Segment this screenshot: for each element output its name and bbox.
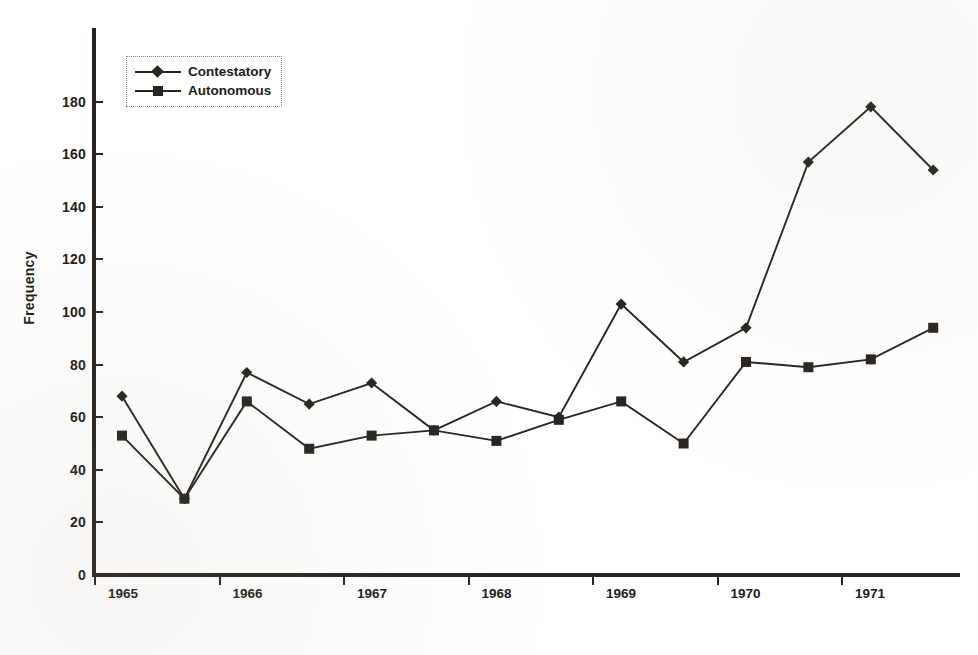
data-point-square [803, 362, 813, 372]
chart-legend: Contestatory Autonomous [126, 56, 282, 107]
data-point-square [117, 431, 127, 441]
diamond-marker-icon [135, 65, 181, 79]
data-point-diamond [304, 398, 315, 409]
data-point-square [429, 425, 439, 435]
series-line-autonomous [122, 328, 933, 499]
data-point-diamond [241, 367, 252, 378]
data-point-diamond [740, 322, 751, 333]
plot-area: Frequency 020406080100120140160180 19651… [0, 0, 978, 655]
legend-label-autonomous: Autonomous [188, 83, 271, 98]
legend-item-autonomous: Autonomous [135, 81, 271, 100]
data-point-square [679, 439, 689, 449]
data-point-square [179, 494, 189, 504]
data-point-square [928, 323, 938, 333]
data-point-diamond [491, 396, 502, 407]
square-marker-icon [135, 84, 181, 98]
data-point-diamond [116, 391, 127, 402]
chart-figure: Frequency 020406080100120140160180 19651… [0, 0, 978, 655]
data-point-square [866, 354, 876, 364]
legend-label-contestatory: Contestatory [188, 64, 271, 79]
data-point-square [242, 396, 252, 406]
data-point-square [616, 396, 626, 406]
series-line-contestatory [122, 107, 933, 499]
data-point-square [367, 431, 377, 441]
data-point-square [491, 436, 501, 446]
data-point-square [741, 357, 751, 367]
legend-item-contestatory: Contestatory [135, 62, 271, 81]
data-point-square [304, 444, 314, 454]
data-point-square [554, 415, 564, 425]
